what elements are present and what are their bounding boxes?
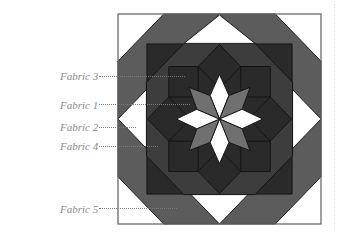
- quilt-block-diagram: [0, 0, 339, 235]
- leader-line-fabric-3: [99, 76, 185, 77]
- leader-line-fabric-2: [99, 127, 136, 128]
- label-fabric-3: Fabric 3: [60, 70, 98, 82]
- leader-line-fabric-1: [99, 104, 190, 105]
- leader-line-fabric-5: [99, 208, 177, 209]
- leader-line-fabric-4: [99, 146, 158, 147]
- label-fabric-4: Fabric 4: [60, 140, 98, 152]
- label-fabric-5: Fabric 5: [60, 203, 98, 215]
- page-edge-dots: [334, 4, 335, 230]
- label-fabric-1: Fabric 1: [60, 99, 98, 111]
- label-fabric-2: Fabric 2: [60, 121, 98, 133]
